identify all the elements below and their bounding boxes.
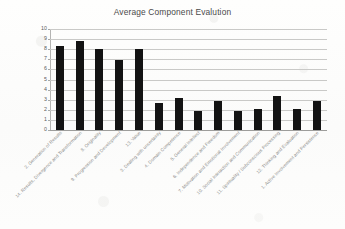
bar[interactable]: [155, 103, 163, 130]
y-tick-label: 8: [44, 47, 47, 52]
bar[interactable]: [293, 109, 301, 130]
bar-slot: [149, 29, 169, 130]
bar-slot: [188, 29, 208, 130]
bar-slot: [50, 29, 70, 130]
bar-slot: [169, 29, 189, 130]
bar[interactable]: [115, 60, 123, 130]
bar[interactable]: [254, 109, 262, 130]
bar[interactable]: [214, 101, 222, 130]
bar-slot: [90, 29, 110, 130]
bar-slot: [228, 29, 248, 130]
y-tick-label: 3: [44, 97, 47, 102]
bar[interactable]: [135, 49, 143, 130]
bar-slot: [287, 29, 307, 130]
x-axis-labels: 2. Generation of Results14. Results, Div…: [50, 131, 327, 227]
bar[interactable]: [313, 101, 321, 130]
bar[interactable]: [273, 96, 281, 130]
bar-slot: [109, 29, 129, 130]
y-tick-label: 0: [44, 127, 47, 132]
bar-slot: [129, 29, 149, 130]
y-tick-label: 4: [44, 87, 47, 92]
bar[interactable]: [56, 46, 64, 130]
y-tick-label: 7: [44, 57, 47, 62]
y-tick-label: 9: [44, 36, 47, 41]
bar[interactable]: [194, 111, 202, 130]
bar-slot: [307, 29, 327, 130]
bar-series: [50, 29, 327, 130]
bar[interactable]: [175, 98, 183, 130]
bar-slot: [70, 29, 90, 130]
chart-page: Average Component Evalution 109876543210…: [0, 0, 345, 229]
x-axis-label: 13. Value: [125, 131, 142, 148]
bar-slot: [268, 29, 288, 130]
bar-slot: [248, 29, 268, 130]
bar-slot: [208, 29, 228, 130]
bar[interactable]: [76, 41, 84, 130]
y-tick-label: 1: [44, 117, 47, 122]
bar[interactable]: [95, 49, 103, 130]
y-tick-label: 6: [44, 67, 47, 72]
chart-title: Average Component Evalution: [0, 7, 345, 17]
y-tick-label: 5: [44, 77, 47, 82]
y-tick-label: 2: [44, 107, 47, 112]
plot-area: 109876543210: [50, 29, 327, 130]
bar[interactable]: [234, 111, 242, 130]
y-tick-label: 10: [41, 26, 47, 31]
